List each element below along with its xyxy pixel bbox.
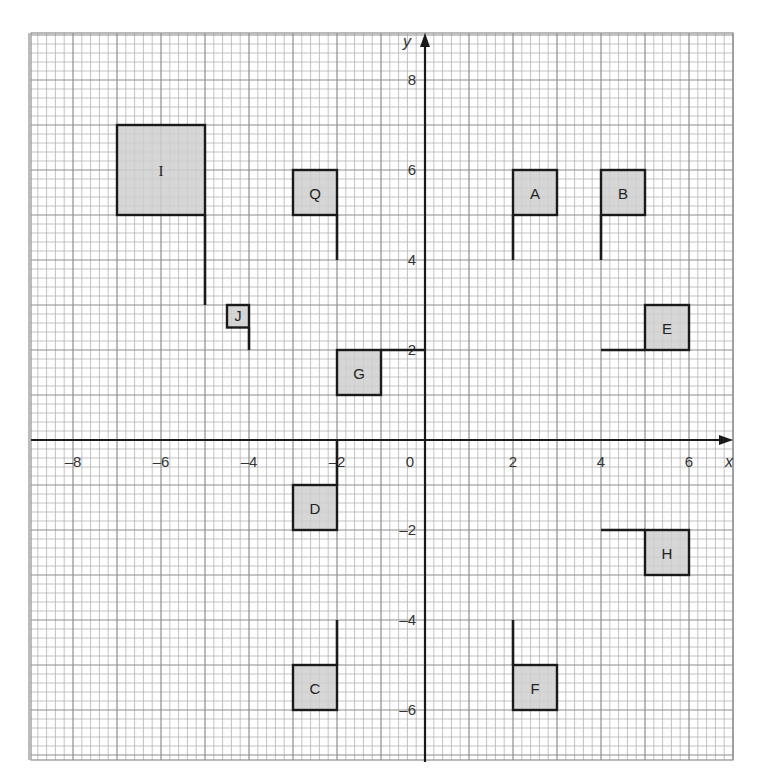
x-tick-label: 0 (406, 453, 414, 470)
flag-q: Q (293, 170, 337, 260)
flag-j: J (227, 305, 249, 350)
y-tick-label: 6 (408, 161, 416, 178)
y-axis-label: y (402, 33, 412, 50)
flag-a: A (513, 170, 557, 260)
flag-label: G (353, 365, 365, 382)
flag-label: E (662, 320, 672, 337)
flag-h: H (601, 530, 689, 575)
flag-label: B (618, 185, 628, 202)
x-tick-label: 6 (685, 453, 693, 470)
y-tick-label: 4 (408, 251, 416, 268)
flag-label: Q (309, 185, 321, 202)
flag-f: F (513, 620, 557, 710)
flag-label: A (530, 185, 540, 202)
y-tick-label: –6 (399, 701, 416, 718)
y-tick-label: 8 (408, 71, 416, 88)
x-tick-label: –8 (65, 453, 82, 470)
flag-label: I (159, 163, 164, 179)
y-tick-label: –4 (399, 611, 416, 628)
x-tick-label: 2 (509, 453, 517, 470)
x-axis-arrow-icon (719, 435, 733, 445)
flag-b: B (601, 170, 645, 260)
flag-label: D (310, 500, 321, 517)
flag-c: C (293, 620, 337, 710)
x-tick-label: –6 (153, 453, 170, 470)
x-tick-label: 4 (597, 453, 605, 470)
flag-label: F (530, 680, 539, 697)
coordinate-grid-diagram: x y –8–6–4–202468642–2–4–6 ABCDEFGHIJQ (0, 0, 758, 783)
x-tick-label: –4 (241, 453, 258, 470)
flag-label: C (310, 680, 321, 697)
flag-label: H (662, 545, 673, 562)
flag-label: J (235, 308, 242, 324)
y-tick-label: –2 (399, 521, 416, 538)
coordinate-plane: x y –8–6–4–202468642–2–4–6 ABCDEFGHIJQ (0, 0, 758, 783)
flag-e: E (601, 305, 689, 350)
x-axis-label: x (724, 453, 734, 470)
